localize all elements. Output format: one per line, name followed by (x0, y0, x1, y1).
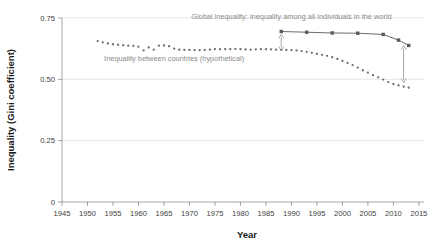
gap-arrow-left (279, 34, 284, 50)
x-tick-label-1975: 1975 (207, 209, 224, 218)
data-point-marker (331, 56, 333, 58)
data-point-marker (357, 66, 359, 68)
data-point-marker (336, 58, 338, 60)
y-tick-label-0: 0 (51, 198, 55, 207)
gini-inequality-chart: Global inequality: inequality among all … (0, 0, 431, 246)
data-point-marker (285, 49, 287, 51)
x-tick-label-2005: 2005 (359, 209, 376, 218)
x-tick-label-1980: 1980 (232, 209, 249, 218)
x-tick-label-2010: 2010 (385, 209, 402, 218)
data-point-marker (311, 52, 313, 54)
series-line-global (281, 31, 408, 45)
x-tick-label-1990: 1990 (283, 209, 300, 218)
data-point-marker (408, 87, 410, 89)
data-point-marker (250, 49, 252, 51)
data-point-marker (168, 45, 170, 47)
data-point-marker (275, 49, 277, 51)
gap-arrow-right (401, 45, 406, 82)
data-point-marker (117, 44, 119, 46)
data-point-marker (260, 48, 262, 50)
data-point-marker (148, 46, 150, 48)
y-tick-label-0.5: 0.50 (40, 75, 55, 84)
data-point-marker (331, 31, 334, 34)
y-tick-label-0.75: 0.75 (40, 14, 55, 23)
x-tick-label-1995: 1995 (308, 209, 325, 218)
data-point-marker (265, 48, 267, 50)
x-tick-label-1950: 1950 (79, 209, 96, 218)
chart-canvas: Global inequality: inequality among all … (0, 0, 431, 246)
data-point-marker (397, 84, 399, 86)
data-point-marker (137, 46, 139, 48)
data-point-marker (219, 48, 221, 50)
gridlines-group (62, 18, 424, 141)
data-point-marker (173, 48, 175, 50)
axes-group (62, 18, 424, 202)
y-tick-label-0.25: 0.25 (40, 136, 55, 145)
data-point-marker (193, 49, 195, 51)
data-point-marker (178, 49, 180, 51)
x-tick-label-2000: 2000 (334, 209, 351, 218)
x-axis-title: Year (237, 229, 257, 240)
data-point-marker (204, 49, 206, 51)
data-point-marker (295, 49, 297, 51)
data-point-marker (290, 49, 292, 51)
data-point-marker (122, 44, 124, 46)
data-point-marker (127, 45, 129, 47)
x-tick-label-1955: 1955 (105, 209, 122, 218)
global-inequality-label: Global inequality: inequality among all … (191, 12, 392, 21)
y-axis-title: Inequality (Gini coefficient) (5, 49, 16, 171)
data-point-marker (199, 49, 201, 51)
data-point-marker (387, 81, 389, 83)
data-point-marker (188, 49, 190, 51)
x-tick-label-1945: 1945 (54, 209, 71, 218)
data-point-marker (397, 38, 400, 41)
x-tick-label-1985: 1985 (257, 209, 274, 218)
data-point-marker (214, 48, 216, 50)
data-point-marker (356, 32, 359, 35)
series-1 (280, 30, 411, 47)
data-point-marker (97, 40, 99, 42)
data-point-marker (377, 76, 379, 78)
series-0 (97, 40, 410, 89)
tick-marks-group (58, 18, 419, 206)
tick-labels-group: 00.250.500.75194519501955196019651970197… (40, 14, 427, 218)
data-point-marker (306, 51, 308, 53)
data-point-marker (321, 54, 323, 56)
x-tick-label-1960: 1960 (130, 209, 147, 218)
data-point-marker (407, 44, 410, 47)
data-point-marker (112, 43, 114, 45)
data-point-marker (255, 48, 257, 50)
x-tick-label-1965: 1965 (156, 209, 173, 218)
data-point-marker (382, 33, 385, 36)
data-point-marker (142, 49, 144, 51)
data-point-marker (351, 64, 353, 66)
data-point-marker (209, 49, 211, 51)
x-tick-label-2015: 2015 (410, 209, 427, 218)
data-point-marker (305, 31, 308, 34)
data-point-marker (158, 45, 160, 47)
between-countries-label: Inequality between countries (hypothetic… (104, 54, 244, 63)
data-point-marker (326, 55, 328, 57)
data-point-marker (372, 74, 374, 76)
data-point-marker (183, 49, 185, 51)
data-point-marker (153, 49, 155, 51)
data-point-marker (362, 69, 364, 71)
data-point-marker (280, 30, 283, 33)
data-point-marker (316, 53, 318, 55)
data-point-marker (229, 48, 231, 50)
data-point-marker (224, 48, 226, 50)
data-point-marker (367, 72, 369, 74)
data-point-marker (270, 48, 272, 50)
data-point-marker (341, 60, 343, 62)
data-point-marker (402, 86, 404, 88)
data-point-marker (239, 48, 241, 50)
data-point-marker (234, 48, 236, 50)
data-point-marker (102, 41, 104, 43)
data-point-marker (132, 45, 134, 47)
data-point-marker (392, 83, 394, 85)
data-point-marker (163, 44, 165, 46)
data-point-marker (346, 62, 348, 64)
data-point-marker (244, 48, 246, 50)
data-point-marker (107, 42, 109, 44)
x-tick-label-1970: 1970 (181, 209, 198, 218)
